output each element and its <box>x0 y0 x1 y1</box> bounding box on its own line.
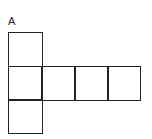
square-bottom <box>8 99 43 134</box>
figure-label: A <box>8 15 15 27</box>
square-middle-3 <box>74 66 109 101</box>
square-middle-2 <box>41 66 76 101</box>
square-top <box>8 32 43 67</box>
square-middle-4 <box>107 66 141 101</box>
square-middle-left <box>8 66 43 101</box>
